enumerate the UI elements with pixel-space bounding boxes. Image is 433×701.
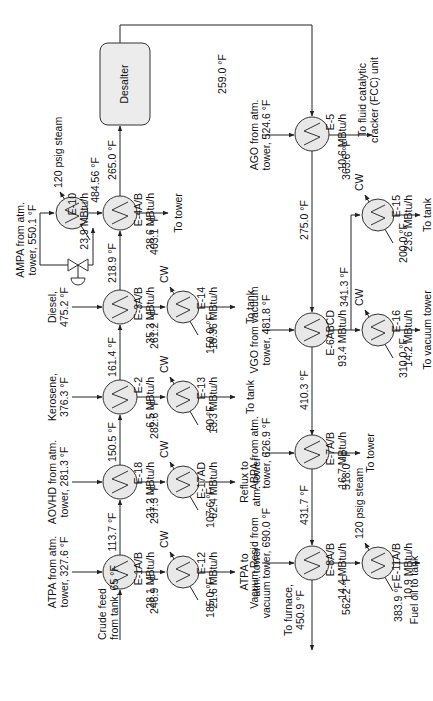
temp-113-7: 113.7 °F <box>106 512 118 551</box>
kerosene-in-label-1: Kerosene, <box>46 373 58 421</box>
ampa-in-label-1: AMPA from atm. <box>14 202 26 278</box>
atpa-in-label-1: ATPA from atm. <box>46 536 58 609</box>
fcc-out-label-1: To fluid catalytic <box>356 63 368 137</box>
temp-107-6: 107.6 °F <box>204 488 216 528</box>
cw-label-e17ad: CW <box>158 440 170 458</box>
crude-feed-label-1: Crude feed <box>96 588 108 640</box>
atpa-in-label-2: tower, 327.6 °F <box>58 537 70 608</box>
aovhd-in-label-1: AOVHD from atm. <box>46 440 58 525</box>
temp-310-0: 310.0 °F <box>397 338 409 378</box>
e-16-id: E-16 <box>390 310 402 332</box>
temp-518-0: 518.0 °F <box>340 450 352 490</box>
diesel-in-label-1: Diesel, <box>46 291 58 323</box>
temp-261-2: 261.2 °F <box>148 309 160 349</box>
crude-feed-label-2: from tank, 65 °F <box>108 565 120 640</box>
temp-218-9: 218.9 °F <box>106 243 118 283</box>
temp-341-3: 341.3 °F <box>338 267 350 307</box>
ampa-out-label: To tower <box>172 193 184 233</box>
cw-label-e16: CW <box>353 288 365 306</box>
temp-363-6: 363.6 °F <box>340 140 352 180</box>
e-7ab-id: E-7A/B <box>324 432 336 465</box>
atpa-out-label-1: ATPA to <box>238 553 250 590</box>
aovhd-in-label-2: tower, 281.3 °F <box>58 447 70 518</box>
temp-282-6: 282.6 °F <box>148 399 160 439</box>
kerosene-in-label-2: 376.3 °F <box>58 377 70 417</box>
temp-259-0: 259.0 °F <box>216 54 228 94</box>
temp-275-0: 275.0 °F <box>298 200 310 240</box>
steam-label-e11: 120 psig steam <box>353 468 365 539</box>
cw-label-e14: CW <box>158 265 170 283</box>
temp-185-0: 185.0 °F <box>204 578 216 618</box>
desalter-label: Desalter <box>118 64 130 104</box>
temp-403-1: 403.1 °F <box>148 215 160 255</box>
e-15-id: E-15 <box>390 195 402 217</box>
e-6abcd-duty: 93.4 MBtu/h <box>336 310 348 367</box>
temp-383-9: 383.9 °F <box>392 582 404 622</box>
fuel-oil-out-label: Fuel oil to tank <box>408 555 420 624</box>
control-valve <box>68 259 88 285</box>
ampa-in-label-2: tower, 550.1 °F <box>26 205 38 276</box>
cw-label-e15: CW <box>353 173 365 191</box>
temp-246-9: 246.9 °F <box>148 574 160 614</box>
temp-161-4: 161.4 °F <box>106 337 118 377</box>
temp-431-7: 431.7 °F <box>298 485 310 525</box>
furnace-out-label-1: To furnace, <box>282 584 294 636</box>
ago-in-label-2: tower, 524.6 °F <box>260 100 272 171</box>
cw-label-e12: CW <box>158 530 170 548</box>
vgo-in-label-2: tower, 481.8 °F <box>260 295 272 366</box>
furnace-out-label-2: 450.9 °F <box>294 590 306 630</box>
diesel-in-label-2: 475.2 °F <box>58 287 70 327</box>
steam-label-e10: 120 psig steam <box>52 117 64 188</box>
e-13-id: E-13 <box>195 377 207 399</box>
abpa-out-label: To tower <box>364 433 376 473</box>
e16-out-label: To vacuum tower <box>421 290 433 370</box>
diesel-out-label: To tank <box>244 289 256 324</box>
ago-in-label-1: AGO from atm. <box>248 100 260 171</box>
e-4ab-id: E-4A/B <box>132 193 144 226</box>
process-flow-diagram: Desalter E-1A/B 28.1 MBtu/h E-12 21.6 MB… <box>0 0 433 701</box>
reflux-out-label-1: Reflux to <box>238 461 250 503</box>
temp-150-0: 150.0 °F <box>204 314 216 354</box>
temp-200-0: 200.0 °F <box>397 223 409 263</box>
desalter: Desalter <box>100 43 150 125</box>
e-18-id: E-18 <box>132 462 144 484</box>
temp-150-5: 150.5 °F <box>106 422 118 462</box>
kero-out-label: To tank <box>244 379 256 414</box>
cw-label-e13: CW <box>158 355 170 373</box>
e-12-id: E-12 <box>195 552 207 574</box>
e-14-id: E-14 <box>195 287 207 309</box>
temp-237-3: 237.3 °F <box>148 484 160 524</box>
temp-265-0: 265.0 °F <box>106 140 118 180</box>
e15-out-label: To tank <box>421 197 433 232</box>
e-2-id: E-2 <box>132 377 144 394</box>
e-6abcd-id: E-6ABCD <box>324 310 336 356</box>
e-1ab-id: E-1A/B <box>132 552 144 585</box>
temp-90: 90 °F <box>204 405 216 430</box>
atpa-out-label-2: atm. tower <box>250 547 262 597</box>
temp-562-2: 562.2 °F <box>340 575 352 615</box>
fcc-out-label-2: cracker (FCC) unit <box>368 57 380 143</box>
temp-484-56: 484.56 °F <box>89 157 101 203</box>
e-3ab-id: E-3A/B <box>132 287 144 320</box>
temp-410-3: 410.3 °F <box>298 370 310 410</box>
e-5-id: E-5 <box>324 114 336 131</box>
e-8ab-id: E-8A/B <box>324 543 336 576</box>
reflux-out-label-2: atm. tower <box>250 457 262 507</box>
e-11ab-id: E-11A/B <box>390 543 402 581</box>
e-10-id: E-10 <box>66 193 78 215</box>
